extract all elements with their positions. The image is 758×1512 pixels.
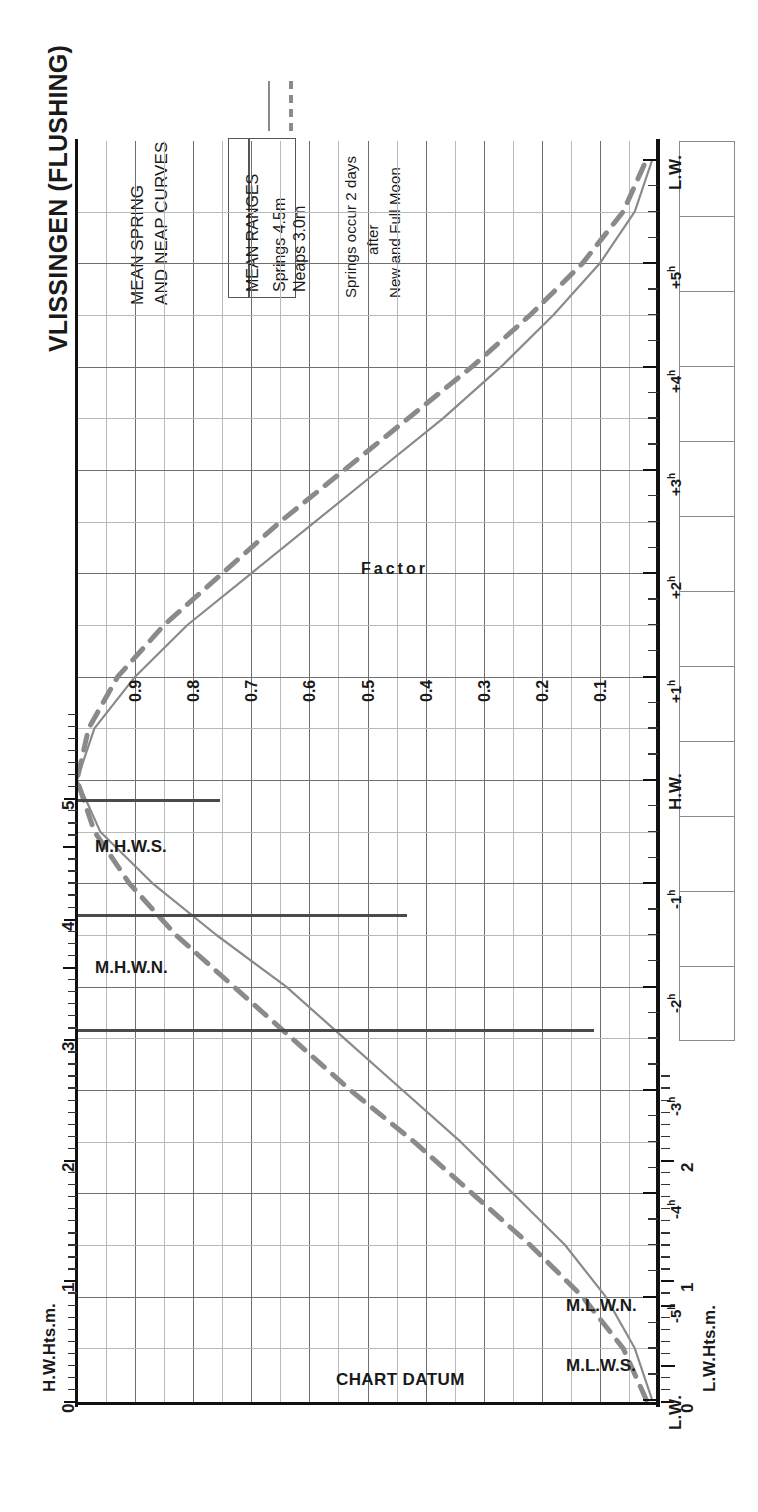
hw-marker-tick — [63, 967, 77, 969]
time-tick — [643, 1296, 658, 1298]
lw-marker-tick — [661, 1365, 675, 1367]
lw-tick — [661, 1244, 670, 1245]
hw-tick — [68, 1172, 77, 1173]
hw-tick-label: 2 — [59, 1162, 79, 1171]
time-tick — [648, 1270, 658, 1271]
time-axis-label: +3h — [666, 473, 684, 496]
lw-tick — [661, 1087, 670, 1088]
connector-hw-3 — [77, 1029, 594, 1032]
lw-tick — [661, 1184, 670, 1185]
hw-tick — [68, 1087, 77, 1088]
hw-tick — [68, 1124, 77, 1125]
hw-tick — [68, 750, 77, 751]
time-tick — [648, 624, 658, 625]
entry-table-row[interactable] — [680, 517, 734, 592]
hw-tick-label: 0 — [59, 1404, 79, 1413]
factor-tick-label: 0.8 — [185, 680, 203, 702]
hw-tick — [68, 894, 77, 895]
time-tick — [643, 469, 658, 471]
time-axis — [656, 139, 660, 1407]
time-tick — [648, 288, 658, 289]
factor-tick-label: 0.6 — [301, 680, 319, 702]
entry-table-row[interactable] — [680, 967, 734, 1042]
time-tick — [648, 1373, 658, 1374]
page-title: VLISSINGEN (FLUSHING) — [44, 45, 73, 352]
factor-tick-label: 0.9 — [127, 680, 145, 702]
lw-tick — [661, 1232, 670, 1233]
lw-tick — [661, 1220, 670, 1221]
chart-datum-line — [77, 1402, 658, 1405]
time-axis-label: +5h — [666, 266, 684, 289]
hw-axis-title: H.W.Hts.m. — [40, 1303, 60, 1392]
hw-tick — [68, 834, 77, 835]
hw-tick — [68, 726, 77, 727]
hw-tick — [68, 762, 77, 763]
lw-tick — [661, 1353, 670, 1354]
entry-table-row[interactable] — [680, 742, 734, 817]
hw-tick — [68, 1220, 77, 1221]
hw-tick — [68, 907, 77, 908]
hw-tick — [68, 1208, 77, 1209]
time-tick — [648, 340, 658, 341]
hw-tick — [68, 858, 77, 859]
hw-tick — [68, 1389, 77, 1390]
time-tick — [643, 1399, 658, 1401]
hw-tick — [68, 1148, 77, 1149]
time-tick — [648, 1063, 658, 1064]
time-tick — [648, 805, 658, 806]
time-tick — [643, 262, 658, 264]
time-axis-label: +2h — [666, 576, 684, 599]
entry-table-row[interactable] — [680, 667, 734, 742]
hw-tick — [68, 1015, 77, 1016]
hw-tick-label: 5 — [59, 801, 79, 810]
entry-table-row[interactable] — [680, 442, 734, 517]
hw-marker-label: M.H.W.S. — [95, 837, 167, 857]
lw-tick — [661, 1148, 670, 1149]
time-tick — [643, 676, 658, 678]
time-tick — [648, 237, 658, 238]
time-tick — [648, 727, 658, 728]
entry-table-row[interactable] — [680, 817, 734, 892]
time-axis-label: -5h — [666, 1303, 684, 1322]
time-tick — [648, 392, 658, 393]
lw-tick-label: 2 — [678, 1162, 698, 1171]
hw-tick — [68, 1268, 77, 1269]
connector-hw-5 — [77, 799, 220, 802]
blank-entry-table[interactable] — [679, 141, 735, 1041]
entry-table-row[interactable] — [680, 892, 734, 967]
hw-tick — [68, 870, 77, 871]
lw-tick-label: 1 — [678, 1283, 698, 1292]
hw-tick — [64, 919, 77, 921]
time-axis-label: -1h — [666, 890, 684, 909]
time-tick — [643, 779, 658, 781]
hw-marker-tick — [63, 846, 77, 848]
time-tick — [643, 1089, 658, 1091]
hw-tick — [68, 1063, 77, 1064]
hw-tick — [68, 1256, 77, 1257]
time-axis-label: H.W. — [666, 773, 686, 810]
time-axis-label: -4h — [666, 1200, 684, 1219]
lw-tick — [661, 1075, 670, 1076]
entry-table-row[interactable] — [680, 367, 734, 442]
time-tick — [648, 1115, 658, 1116]
hw-tick — [68, 774, 77, 775]
entry-table-row[interactable] — [680, 292, 734, 367]
time-axis-label: L.W. — [666, 1395, 686, 1430]
hw-tick — [68, 810, 77, 811]
factor-tick-label: 0.3 — [476, 680, 494, 702]
time-axis-label: L.W. — [666, 155, 686, 190]
entry-table-row[interactable] — [680, 142, 734, 217]
hw-tick — [68, 991, 77, 992]
legend-sample-springs — [264, 80, 274, 132]
hw-tick — [68, 943, 77, 944]
lw-tick — [661, 1196, 670, 1197]
factor-tick-label: 0.5 — [360, 680, 378, 702]
time-tick — [648, 1167, 658, 1168]
hw-tick-label: 3 — [59, 1042, 79, 1051]
hw-tick — [64, 1160, 77, 1162]
entry-table-row[interactable] — [680, 592, 734, 667]
time-tick — [648, 1141, 658, 1142]
entry-table-row[interactable] — [680, 217, 734, 292]
legend-sample-neaps — [286, 80, 296, 132]
hw-tick — [68, 714, 77, 715]
